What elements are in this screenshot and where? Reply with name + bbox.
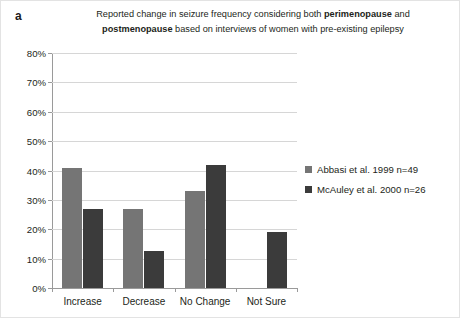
legend-label: McAuley et al. 2000 n=26: [317, 184, 426, 195]
x-axis-category-label: Increase: [63, 296, 101, 307]
legend-swatch-icon: [305, 166, 312, 173]
x-axis-category-label: No Change: [180, 296, 231, 307]
bar: [144, 251, 164, 288]
y-axis-tick-label: 20%: [27, 224, 46, 235]
legend-item[interactable]: Abbasi et al. 1999 n=49: [305, 164, 426, 175]
title-text-post: and: [392, 9, 410, 19]
y-axis-tick: [48, 229, 52, 230]
y-axis-tick: [48, 112, 52, 113]
bar: [206, 165, 226, 288]
y-axis-tick-label: 80%: [27, 48, 46, 59]
chart-title-line-1: Reported change in seizure frequency con…: [57, 7, 449, 22]
panel-letter: a: [15, 10, 22, 22]
bar: [185, 191, 205, 288]
y-axis-tick: [48, 171, 52, 172]
x-axis-tick: [175, 288, 176, 292]
legend-swatch-icon: [305, 186, 312, 193]
bar: [62, 168, 82, 288]
legend-item[interactable]: McAuley et al. 2000 n=26: [305, 184, 426, 195]
y-axis-tick: [48, 200, 52, 201]
y-axis-tick: [48, 53, 52, 54]
gridline: [52, 53, 297, 54]
y-axis-tick-label: 0%: [32, 283, 46, 294]
title-text-line2-post: based on interviews of women with pre-ex…: [173, 24, 404, 34]
title-text-perimenopause: perimenopause: [324, 9, 392, 19]
chart-title: Reported change in seizure frequency con…: [57, 7, 449, 36]
gridline: [52, 112, 297, 113]
x-axis-tick: [297, 288, 298, 292]
y-axis-tick: [48, 259, 52, 260]
bar: [267, 232, 287, 288]
bar: [83, 209, 103, 288]
plot-area: 80%70%60%50%40%30%20%10%0%: [52, 53, 297, 288]
gridline: [52, 200, 297, 201]
title-text-pre: Reported change in seizure frequency con…: [96, 9, 324, 19]
gridline: [52, 141, 297, 142]
figure-panel: a Reported change in seizure frequency c…: [0, 0, 460, 318]
gridline: [52, 82, 297, 83]
chart-legend: Abbasi et al. 1999 n=49McAuley et al. 20…: [305, 164, 426, 195]
y-axis-tick-label: 40%: [27, 165, 46, 176]
chart-title-line-2: postmenopause based on interviews of wom…: [57, 22, 449, 37]
y-axis-tick-label: 60%: [27, 106, 46, 117]
title-text-postmenopause: postmenopause: [102, 24, 172, 34]
y-axis-tick: [48, 82, 52, 83]
gridline: [52, 171, 297, 172]
x-axis-category-label: Decrease: [122, 296, 165, 307]
y-axis-tick-label: 10%: [27, 253, 46, 264]
x-axis-tick: [52, 288, 53, 292]
x-axis-tick: [113, 288, 114, 292]
x-axis-tick: [236, 288, 237, 292]
y-axis-tick-label: 50%: [27, 136, 46, 147]
legend-label: Abbasi et al. 1999 n=49: [317, 164, 418, 175]
bar: [123, 209, 143, 288]
y-axis-tick-label: 70%: [27, 77, 46, 88]
x-axis-category-label: Not Sure: [247, 296, 286, 307]
y-axis-tick-label: 30%: [27, 194, 46, 205]
y-axis-tick: [48, 141, 52, 142]
